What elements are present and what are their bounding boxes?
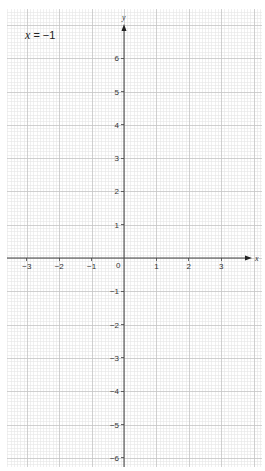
tick-label: 2 [187,262,192,271]
tick-label: 3 [115,154,120,163]
tick-label: −6 [110,454,120,463]
tick-label: 3 [219,262,224,271]
tick-label: 4 [115,121,120,130]
tick-label: −2 [110,321,120,330]
minor-grid [7,9,262,467]
tick-label: −3 [22,262,32,271]
origin-label: 0 [116,261,121,270]
tick-label: −5 [110,421,120,430]
tick-label: 1 [154,262,159,271]
tick-label: −1 [110,287,120,296]
tick-label: 1 [115,221,120,230]
x-axis-arrow-icon [245,256,252,261]
y-axis-arrow-icon [122,24,127,31]
tick-label: −2 [55,262,65,271]
tick-label: 5 [115,88,120,97]
y-axis-label: y [121,13,126,22]
equation-value: = −1 [30,29,55,41]
tick-label: −3 [110,354,120,363]
graph-paper: x y 0 −3−2−1123−6−5−4−3−2−1123456 [0,0,265,471]
tick-label: −1 [87,262,97,271]
tick-label: −4 [110,387,120,396]
x-axis-label: x [254,254,259,263]
equation-label: x = −1 [25,28,55,43]
tick-label: 6 [115,54,120,63]
tick-label: 2 [115,187,120,196]
